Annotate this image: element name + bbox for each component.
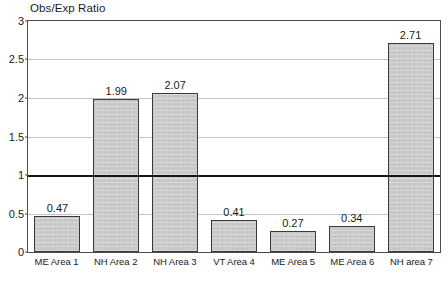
reference-line [28, 175, 440, 177]
x-axis-labels: ME Area 1NH Area 2NH Area 3VT Area 4ME A… [27, 256, 441, 268]
bar-slot: 2.07 [146, 21, 205, 252]
y-axis-tick-label: 1 [18, 169, 24, 181]
bar-slot: 1.99 [87, 21, 146, 252]
bar-value-label: 0.34 [341, 212, 362, 224]
bar-value-label: 2.07 [164, 79, 185, 91]
plot-area: 00.511.522.53 0.471.992.070.410.270.342.… [27, 20, 441, 253]
bar-chart: Obs/Exp Ratio 00.511.522.53 0.471.992.07… [0, 0, 447, 287]
bar-value-label: 2.71 [400, 29, 421, 41]
bar-value-label: 0.27 [282, 217, 303, 229]
bar-slot: 2.71 [381, 21, 440, 252]
bar[interactable]: 2.71 [388, 43, 434, 252]
y-axis-tick-label: 1.5 [9, 131, 24, 143]
x-axis-category-label: NH Area 2 [86, 256, 145, 268]
bar-value-label: 1.99 [106, 85, 127, 97]
bar[interactable]: 0.27 [270, 231, 316, 252]
y-axis-tick-label: 2 [18, 92, 24, 104]
x-axis-category-label: ME Area 5 [264, 256, 323, 268]
bar[interactable]: 0.41 [211, 220, 257, 252]
bar-slot: 0.27 [263, 21, 322, 252]
bar-slot: 0.34 [322, 21, 381, 252]
bars-layer: 0.471.992.070.410.270.342.71 [28, 21, 440, 252]
x-axis-category-label: NH area 7 [382, 256, 441, 268]
bar-value-label: 0.41 [223, 206, 244, 218]
bar-slot: 0.41 [205, 21, 264, 252]
x-axis-category-label: ME Area 1 [27, 256, 86, 268]
bar-slot: 0.47 [28, 21, 87, 252]
y-axis-tick-label: 3 [18, 15, 24, 27]
chart-title: Obs/Exp Ratio [30, 1, 105, 15]
x-axis-category-label: NH Area 3 [145, 256, 204, 268]
x-axis-category-label: VT Area 4 [204, 256, 263, 268]
x-axis-category-label: ME Area 6 [323, 256, 382, 268]
y-axis-tick-label: 0 [18, 246, 24, 258]
y-axis-tick-label: 2.5 [9, 53, 24, 65]
bar[interactable]: 0.47 [34, 216, 80, 252]
bar[interactable]: 2.07 [152, 93, 198, 252]
y-axis-tick-label: 0.5 [9, 208, 24, 220]
bar[interactable]: 0.34 [329, 226, 375, 252]
bar-value-label: 0.47 [47, 202, 68, 214]
